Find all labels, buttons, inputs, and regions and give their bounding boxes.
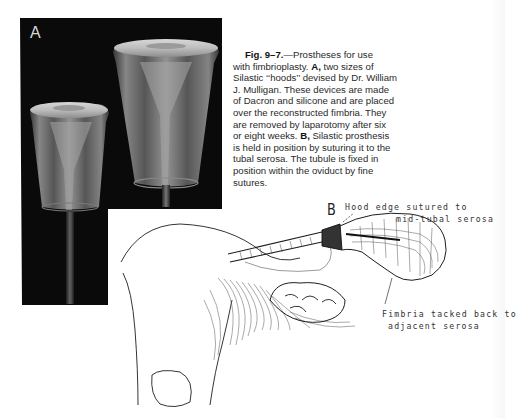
annotation-fimbria-2: adjacent serosa [388,321,480,331]
annotation-fimbria-1: Fimbria tacked back to [382,309,517,319]
panel-b-label: B [327,200,336,219]
annotation-hood-edge-1: Hood edge sutured to [345,202,468,212]
annotation-hood-edge-2: mid-tubal serosa [396,214,494,224]
